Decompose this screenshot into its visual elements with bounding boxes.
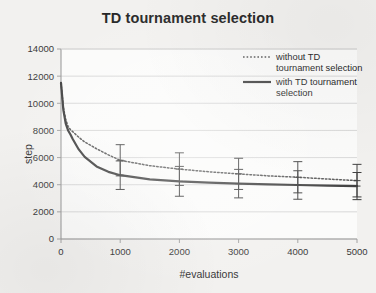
- x-tick-label: 4000: [287, 246, 308, 257]
- y-tick-label: 8000: [33, 125, 54, 136]
- y-tick-label: 6000: [33, 152, 54, 163]
- plot-canvas: 0200040006000800010000120001400001000200…: [0, 0, 376, 293]
- legend-label-line2: selection: [276, 88, 313, 98]
- x-tick-label: 1000: [110, 246, 131, 257]
- y-tick-label: 2000: [33, 206, 54, 217]
- y-axis-label: step: [22, 124, 34, 184]
- x-tick-label: 3000: [228, 246, 249, 257]
- x-tick-label: 0: [58, 246, 63, 257]
- y-tick-label: 12000: [28, 71, 54, 82]
- legend-label-line2: tournament selection: [276, 63, 362, 73]
- x-tick-label: 5000: [346, 246, 367, 257]
- legend-label-line1: without TD: [275, 52, 321, 62]
- x-tick-label: 2000: [169, 246, 190, 257]
- y-tick-label: 4000: [33, 179, 54, 190]
- chart-figure: TD tournament selection step #evaluation…: [0, 0, 376, 293]
- x-axis-label: #evaluations: [61, 268, 357, 280]
- legend-label-line1: with TD tournament: [275, 77, 357, 87]
- y-tick-label: 14000: [28, 43, 54, 54]
- y-tick-label: 10000: [28, 98, 54, 109]
- chart-title: TD tournament selection: [0, 10, 376, 26]
- y-tick-label: 0: [49, 233, 54, 244]
